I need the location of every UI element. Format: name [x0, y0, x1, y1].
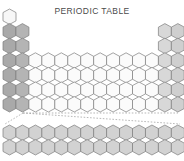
lanthanide-row-cell-4[interactable]: [42, 125, 55, 140]
lanthanide-row-cell-14[interactable]: [171, 125, 184, 140]
element-cell-r5-c6[interactable]: [68, 67, 81, 82]
element-cell-r7-c5[interactable]: [55, 97, 68, 112]
element-cell-r7-c13[interactable]: [158, 97, 171, 112]
element-cell-r7-c9[interactable]: [107, 97, 120, 112]
element-cell-r3-c14[interactable]: [171, 38, 184, 53]
hex-grid-svg: [0, 0, 184, 161]
element-cell-r5-c1[interactable]: [3, 67, 16, 82]
element-cell-r4-c9[interactable]: [107, 53, 120, 68]
element-cell-r6-c7[interactable]: [81, 82, 94, 97]
element-cell-r6-c10[interactable]: [120, 82, 133, 97]
element-cell-r5-c9[interactable]: [107, 67, 120, 82]
element-cell-r4-c1[interactable]: [3, 53, 16, 68]
element-cell-r4-c4[interactable]: [42, 53, 55, 68]
element-cell-r5-c4[interactable]: [42, 67, 55, 82]
element-cell-r5-c14[interactable]: [171, 67, 184, 82]
element-cell-r3-c1[interactable]: [3, 38, 16, 53]
element-cell-r7-c4[interactable]: [42, 97, 55, 112]
actinide-row-cell-9[interactable]: [107, 140, 120, 155]
actinide-row-cell-7[interactable]: [81, 140, 94, 155]
lanthanide-row-cell-8[interactable]: [94, 125, 107, 140]
lanthanide-row-cell-10[interactable]: [120, 125, 133, 140]
lanthanide-row-cell-11[interactable]: [133, 125, 146, 140]
lanthanide-row-cell-7[interactable]: [81, 125, 94, 140]
element-cell-r7-c8[interactable]: [94, 97, 107, 112]
element-cell-r4-c12[interactable]: [145, 53, 158, 68]
element-cell-r7-c6[interactable]: [68, 97, 81, 112]
actinide-row-cell-2[interactable]: [16, 140, 29, 155]
element-cell-r7-c1[interactable]: [3, 97, 16, 112]
element-cell-r5-c10[interactable]: [120, 67, 133, 82]
element-cell-r6-c4[interactable]: [42, 82, 55, 97]
element-cell-r3-c2[interactable]: [16, 38, 29, 53]
hex-grid: [0, 0, 184, 161]
element-cell-r7-c14[interactable]: [171, 97, 184, 112]
lanthanide-row-cell-5[interactable]: [55, 125, 68, 140]
element-cell-r6-c12[interactable]: [145, 82, 158, 97]
element-cell-r2-c14[interactable]: [171, 24, 184, 39]
element-cell-r6-c1[interactable]: [3, 82, 16, 97]
element-cell-r5-c12[interactable]: [145, 67, 158, 82]
element-cell-r4-c3[interactable]: [29, 53, 42, 68]
element-cell-r6-c11[interactable]: [133, 82, 146, 97]
element-cell-r2-c1[interactable]: [3, 24, 16, 39]
periodic-table-figure: PERIODIC TABLE: [0, 0, 184, 161]
actinide-row-cell-10[interactable]: [120, 140, 133, 155]
element-cell-r5-c2[interactable]: [16, 67, 29, 82]
element-cell-r5-c11[interactable]: [133, 67, 146, 82]
element-cell-r7-c7[interactable]: [81, 97, 94, 112]
element-cell-r6-c8[interactable]: [94, 82, 107, 97]
actinide-row-cell-3[interactable]: [29, 140, 42, 155]
element-cell-r5-c7[interactable]: [81, 67, 94, 82]
lanthanide-row-cell-9[interactable]: [107, 125, 120, 140]
element-cell-r2-c2[interactable]: [16, 24, 29, 39]
actinide-row-cell-6[interactable]: [68, 140, 81, 155]
element-cell-r6-c14[interactable]: [171, 82, 184, 97]
lanthanide-row-cell-6[interactable]: [68, 125, 81, 140]
element-cell-r4-c13[interactable]: [158, 53, 171, 68]
actinide-row-cell-1[interactable]: [3, 140, 16, 155]
element-cell-r5-c8[interactable]: [94, 67, 107, 82]
element-cell-r4-c11[interactable]: [133, 53, 146, 68]
element-cell-r7-c11[interactable]: [133, 97, 146, 112]
actinide-row-cell-12[interactable]: [145, 140, 158, 155]
element-cell-r5-c13[interactable]: [158, 67, 171, 82]
actinide-row-cell-4[interactable]: [42, 140, 55, 155]
actinide-row-cell-14[interactable]: [171, 140, 184, 155]
element-cell-r6-c5[interactable]: [55, 82, 68, 97]
actinide-row-cell-11[interactable]: [133, 140, 146, 155]
actinide-row-cell-8[interactable]: [94, 140, 107, 155]
element-cell-r5-c3[interactable]: [29, 67, 42, 82]
actinide-row-cell-5[interactable]: [55, 140, 68, 155]
actinide-row-cell-13[interactable]: [158, 140, 171, 155]
lanthanide-row-cell-12[interactable]: [145, 125, 158, 140]
element-cell-r1-c1[interactable]: [3, 9, 16, 24]
element-cell-r4-c10[interactable]: [120, 53, 133, 68]
element-cell-r7-c2[interactable]: [16, 97, 29, 112]
element-cell-r7-c3[interactable]: [29, 97, 42, 112]
lanthanide-row-cell-3[interactable]: [29, 125, 42, 140]
element-cell-r6-c3[interactable]: [29, 82, 42, 97]
element-cell-r2-c13[interactable]: [158, 24, 171, 39]
element-cell-r5-c5[interactable]: [55, 67, 68, 82]
lanthanide-row-cell-2[interactable]: [16, 125, 29, 140]
element-cell-r4-c6[interactable]: [68, 53, 81, 68]
element-cell-r4-c14[interactable]: [171, 53, 184, 68]
element-cell-r6-c6[interactable]: [68, 82, 81, 97]
element-cell-r4-c5[interactable]: [55, 53, 68, 68]
element-cell-r6-c9[interactable]: [107, 82, 120, 97]
element-cell-r4-c2[interactable]: [16, 53, 29, 68]
element-cell-r4-c7[interactable]: [81, 53, 94, 68]
element-cell-r7-c12[interactable]: [145, 97, 158, 112]
element-cell-r4-c8[interactable]: [94, 53, 107, 68]
lanthanide-row-cell-13[interactable]: [158, 125, 171, 140]
element-cell-r6-c13[interactable]: [158, 82, 171, 97]
element-cell-r7-c10[interactable]: [120, 97, 133, 112]
element-cell-r6-c2[interactable]: [16, 82, 29, 97]
element-cell-r3-c13[interactable]: [158, 38, 171, 53]
lanthanide-row-cell-1[interactable]: [3, 125, 16, 140]
